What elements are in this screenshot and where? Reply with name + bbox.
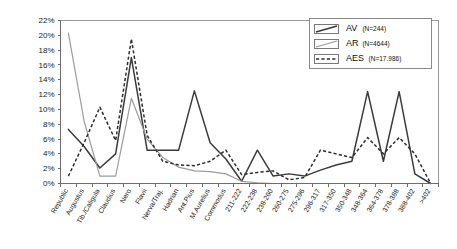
x-tick-label: >402 [418,187,432,204]
y-tick-label: 10% [38,105,54,114]
y-tick-label: 12% [38,90,54,99]
y-tick-label: 22% [38,16,54,25]
x-tick-label: Nero [119,187,133,204]
legend-count-ar: (N=4644) [362,40,389,48]
legend-label-ar: AR [346,38,359,48]
y-tick-label: 4% [43,149,55,158]
legend-label-av: AV [346,23,357,33]
x-tick-label: Flavii [134,187,148,205]
y-tick-label: 2% [43,164,55,173]
y-axis-ticks: 0%2%4%6%8%10%12%14%16%18%20%22% [38,16,60,188]
legend-count-aes: (N=17.986) [369,55,402,63]
chart-container: 0%2%4%6%8%10%12%14%16%18%20%22% Republic… [0,0,457,249]
legend-label-aes: AES [346,53,364,63]
y-tick-label: 20% [38,31,54,40]
legend-count-av: (N=244) [362,25,386,33]
x-axis-labels: RepublicAugustusTib./CaligulaClaudiusNer… [50,187,432,225]
y-tick-label: 6% [43,135,55,144]
y-tick-label: 14% [38,75,54,84]
y-tick-label: 16% [38,61,54,70]
y-tick-label: 0% [43,179,55,188]
line-chart: 0%2%4%6%8%10%12%14%16%18%20%22% Republic… [0,0,457,249]
chart-legend: AV(N=244)AR(N=4644)AES(N=17.986) [310,19,432,69]
y-tick-label: 18% [38,46,54,55]
y-tick-label: 8% [43,120,55,129]
